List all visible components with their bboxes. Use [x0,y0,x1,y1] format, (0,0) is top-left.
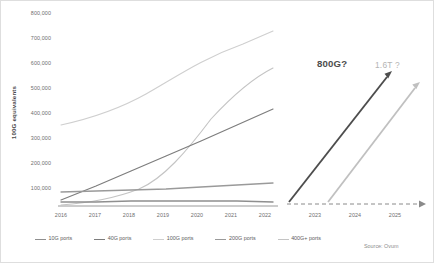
chart-legend: 10G ports 40G ports 100G ports 200G port… [35,232,321,246]
series-line-40g-ports [61,109,273,200]
legend-label: 10G ports [49,236,73,241]
source-credit: Source: Ovum [364,244,398,249]
legend-item-10g-ports[interactable]: 10G ports [35,236,72,241]
legend-swatch-icon [215,239,226,240]
legend-label: 100G ports [167,236,194,241]
projection-axis-arrowhead-icon [419,201,426,208]
legend-swatch-icon [94,239,105,240]
legend-label: 40G ports [108,236,132,241]
legend-label: 400G+ ports [291,236,321,241]
arrow-16t-line [328,88,415,202]
series-line-100g-ports [61,31,273,125]
legend-swatch-icon [278,239,289,240]
legend-label: 200G ports [229,236,256,241]
legend-item-400gplus-ports[interactable]: 400G+ ports [278,236,321,241]
legend-swatch-icon [153,239,164,240]
plot-area [1,1,434,263]
chart-figure: 100G equivalents 800,000 700,000 600,000… [0,0,434,263]
legend-item-200g-ports[interactable]: 200G ports [215,236,255,241]
arrow-800g-line [289,77,387,202]
legend-swatch-icon [35,239,46,240]
16t-annotation: 1.6T ? [375,61,400,69]
arrow-16t-head-icon [412,82,420,89]
legend-item-40g-ports[interactable]: 40G ports [94,236,131,241]
800g-annotation: 800G? [317,59,347,69]
legend-item-100g-ports[interactable]: 100G ports [153,236,193,241]
